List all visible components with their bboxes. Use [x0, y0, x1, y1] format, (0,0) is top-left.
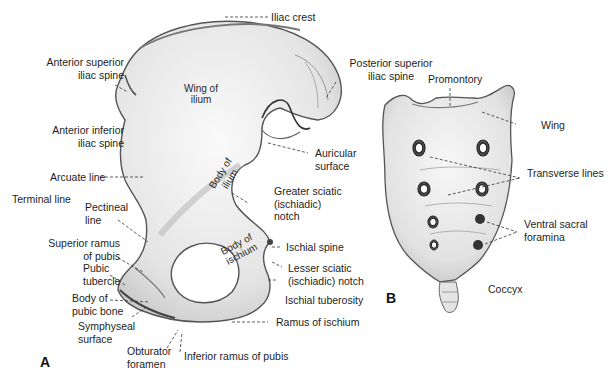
label-line: tubercle — [83, 275, 120, 288]
label-body-of-pubic-bone: Body of pubic bone — [72, 292, 123, 317]
label-obturator-foramen: Obturator foramen — [127, 345, 171, 370]
label-line: Posterior superior — [336, 57, 446, 70]
label-line: Obturator — [127, 345, 171, 358]
label-lesser-sciatic-notch: Lesser sciatic (ischiadic) notch — [288, 262, 364, 287]
label-auricular-surface: Auricular surface — [315, 147, 356, 172]
label-line: Symphyseal — [78, 320, 135, 333]
panel-label-a: A — [40, 354, 50, 370]
label-line: Lesser sciatic — [288, 262, 364, 275]
label-line: ilium — [176, 94, 226, 105]
label-line: Body of — [72, 292, 123, 305]
label-ischial-tuberosity: Ischial tuberosity — [285, 294, 363, 307]
label-line: notch — [274, 210, 342, 223]
label-line: Ventral sacral — [524, 218, 588, 231]
label-iliac-crest: Iliac crest — [271, 11, 315, 24]
label-greater-sciatic-notch: Greater sciatic (ischiadic) notch — [274, 185, 342, 223]
label-line: surface — [315, 160, 356, 173]
label-line: surface — [78, 333, 135, 346]
label-line: Superior ramus — [40, 237, 120, 250]
label-terminal-line: Terminal line — [12, 193, 71, 206]
label-pubic-tubercle: Pubic tubercle — [83, 262, 120, 287]
label-ventral-sacral-foramina: Ventral sacral foramina — [524, 218, 588, 243]
panel-label-b: B — [386, 290, 396, 306]
label-transverse-lines: Transverse lines — [527, 167, 604, 180]
label-line: Anterior inferior — [14, 124, 124, 137]
label-line: foramen — [127, 358, 171, 371]
label-ramus-of-ischium: Ramus of ischium — [276, 316, 359, 329]
label-wing-of-ilium: Wing of ilium — [176, 83, 226, 105]
label-line: line — [85, 214, 128, 227]
label-pectineal-line: Pectineal line — [85, 201, 128, 226]
label-line: Wing of — [176, 83, 226, 94]
label-anterior-superior-iliac-spine: Anterior superior iliac spine — [14, 56, 124, 81]
label-symphyseal-surface: Symphyseal surface — [78, 320, 135, 345]
label-line: Greater sciatic — [274, 185, 342, 198]
label-wing: Wing — [541, 119, 565, 132]
label-line: Auricular — [315, 147, 356, 160]
label-line: Pectineal — [85, 201, 128, 214]
label-line: (ischiadic) — [274, 198, 342, 211]
label-superior-ramus-of-pubis: Superior ramus of pubis — [40, 237, 120, 262]
label-line: iliac spine — [14, 69, 124, 82]
label-promontory: Promontory — [428, 73, 482, 86]
label-line: pubic bone — [72, 305, 123, 318]
label-line: Anterior superior — [14, 56, 124, 69]
label-line: of pubis — [40, 250, 120, 263]
label-arcuate-line: Arcuate line — [50, 171, 105, 184]
label-line: Pubic — [83, 262, 120, 275]
label-line: (ischiadic) notch — [288, 275, 364, 288]
label-coccyx: Coccyx — [488, 283, 522, 296]
label-line: iliac spine — [14, 137, 124, 150]
label-line: foramina — [524, 231, 588, 244]
label-ischial-spine: Ischial spine — [286, 241, 344, 254]
anatomy-figure: Iliac crest Anterior superior iliac spin… — [0, 0, 612, 378]
label-anterior-inferior-iliac-spine: Anterior inferior iliac spine — [14, 124, 124, 149]
sacrum — [383, 85, 515, 312]
label-inferior-ramus-of-pubis: Inferior ramus of pubis — [184, 350, 288, 363]
